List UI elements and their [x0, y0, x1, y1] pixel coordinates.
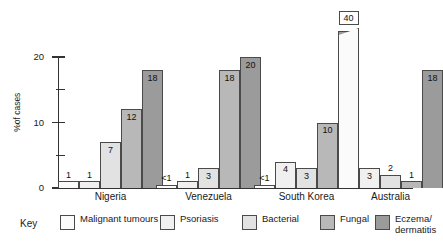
- legend-swatch: [160, 215, 175, 230]
- bar-value-label: <1: [259, 174, 269, 183]
- bar-value-label: 40: [338, 11, 358, 25]
- bar-value-label: 10: [322, 126, 332, 135]
- y-tick-label-0: 0: [10, 183, 44, 193]
- legend-title: Key: [20, 218, 37, 229]
- bar[interactable]: 12: [121, 109, 142, 188]
- bar-value-label: 7: [108, 146, 113, 155]
- bar[interactable]: 18: [422, 70, 443, 188]
- bar-value-label: 1: [185, 171, 190, 180]
- bar-group: 1171218Nigeria: [58, 12, 163, 188]
- bar-value-label: 1: [409, 171, 414, 180]
- bars: <1131820: [156, 12, 261, 188]
- y-tick-label-20: 20: [10, 52, 44, 62]
- bar[interactable]: <1: [156, 185, 177, 189]
- legend-item[interactable]: Bacterial: [242, 214, 299, 230]
- bar-group: 4032118Australia: [338, 12, 443, 188]
- group-label: Nigeria: [58, 192, 163, 202]
- bar-group: <1131820Venezuela: [156, 12, 261, 188]
- bar-value-label: 3: [206, 172, 211, 181]
- legend-swatch: [60, 215, 75, 230]
- legend-item[interactable]: Malignant tumours: [60, 214, 158, 230]
- group-label: Venezuela: [156, 192, 261, 202]
- legend-label: Malignant tumours: [80, 214, 158, 225]
- bar[interactable]: 1: [177, 181, 198, 188]
- bar[interactable]: 1: [79, 181, 100, 188]
- bar[interactable]: 3: [296, 168, 317, 188]
- bar-value-label: 1: [87, 171, 92, 180]
- y-axis-title: %of cases: [13, 81, 22, 143]
- legend-label: Eczema/ dermatitis: [395, 214, 436, 235]
- bar-value-label: 3: [367, 172, 372, 181]
- bar-value-label: 4: [283, 165, 288, 174]
- bar[interactable]: 3: [198, 168, 219, 188]
- chart-legend: Key Malignant tumoursPsoriasisBacterialF…: [0, 206, 421, 251]
- bar[interactable]: 18: [219, 70, 240, 188]
- bar[interactable]: 4: [275, 162, 296, 188]
- bar[interactable]: 40: [338, 28, 359, 188]
- group-label: Australia: [338, 192, 443, 202]
- bar[interactable]: 2: [380, 175, 401, 188]
- plot-area: 01020 %of cases 1171218Nigeria<1131820Ve…: [0, 0, 421, 200]
- legend-label: Psoriasis: [180, 214, 219, 225]
- bars: 4032118: [338, 12, 443, 188]
- legend-swatch: [242, 215, 257, 230]
- bar-value-label: 3: [304, 172, 309, 181]
- x-axis-baseline: [58, 188, 413, 189]
- legend-item[interactable]: Eczema/ dermatitis: [375, 214, 436, 235]
- bar[interactable]: 3: [359, 168, 380, 188]
- broken-bar-body: [338, 28, 359, 188]
- bar[interactable]: <1: [254, 185, 275, 189]
- legend-label: Fungal: [340, 214, 369, 225]
- legend-swatch: [375, 215, 390, 230]
- bar[interactable]: 1: [58, 181, 79, 188]
- legend-item[interactable]: Fungal: [320, 214, 369, 230]
- bar-value-label: 2: [388, 164, 393, 173]
- bars: 1171218: [58, 12, 163, 188]
- bar-value-label: <1: [161, 174, 171, 183]
- bar[interactable]: 7: [100, 142, 121, 188]
- bar-value-label: 1: [66, 171, 71, 180]
- bar-value-label: 18: [427, 74, 437, 83]
- bar-value-label: 18: [224, 74, 234, 83]
- bar[interactable]: 10: [317, 123, 338, 189]
- legend-item[interactable]: Psoriasis: [160, 214, 219, 230]
- bar[interactable]: 1: [401, 181, 422, 188]
- bar-value-label: 12: [126, 113, 136, 122]
- legend-swatch: [320, 215, 335, 230]
- legend-label: Bacterial: [262, 214, 299, 225]
